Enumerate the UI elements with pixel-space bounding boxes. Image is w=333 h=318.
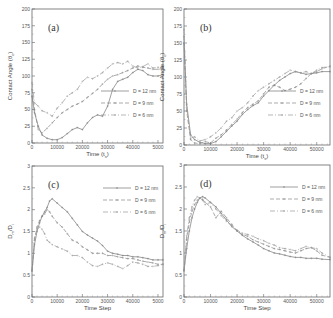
x-axis-label: Time (ts)	[86, 151, 108, 159]
y-tick-label: 125	[22, 56, 31, 62]
x-tick-label: 30000	[257, 146, 271, 152]
x-tick-label: 40000	[126, 144, 140, 150]
legend-entry: D = 6 nm	[133, 112, 153, 118]
y-tick-label: 200	[174, 6, 183, 12]
legend-entry: D = 9 nm	[302, 196, 322, 202]
x-axis-label: Time Step	[243, 305, 271, 311]
y-tick-label: 150	[174, 40, 183, 46]
y-tick-label: 25	[24, 123, 30, 129]
y-tick-label: 2	[27, 206, 30, 212]
y-tick-label: 2.5	[175, 184, 182, 190]
y-tick-label: 1	[27, 250, 30, 256]
y-axis-label: Contact Angle (θc)	[7, 52, 15, 100]
x-tick-label: 40000	[283, 146, 297, 152]
x-tick-label: 0	[183, 298, 186, 304]
legend: D = 12 nmD = 9 nmD = 6 nm	[270, 184, 325, 214]
x-tick-label: 20000	[230, 298, 244, 304]
x-axis-label: Time Step	[84, 305, 112, 311]
legend-entry: D = 9 nm	[135, 197, 155, 203]
x-axis-label: Time (ts)	[246, 153, 268, 161]
x-tick-label: 10000	[204, 146, 218, 152]
x-tick-label: 50000	[310, 298, 324, 304]
y-axis-label: Contact Angle (θc)	[159, 53, 167, 101]
x-tick-label: 0	[31, 298, 34, 304]
panel-label: (a)	[48, 22, 59, 34]
x-tick-label: 20000	[75, 298, 89, 304]
y-tick-label: 0.5	[175, 272, 182, 278]
legend: D = 12 nmD = 9 nmD = 6 nm	[268, 88, 323, 118]
y-tick-label: 25	[176, 125, 182, 131]
y-tick-label: 75	[24, 90, 30, 96]
legend-entry: D = 9 nm	[133, 100, 153, 106]
legend: D = 12 nmD = 9 nmD = 6 nm	[101, 88, 156, 118]
legend-entry: D = 12 nm	[133, 88, 156, 94]
y-tick-label: 175	[174, 23, 183, 29]
legend-entry: D = 12 nm	[302, 184, 325, 190]
legend-entry: D = 12 nm	[300, 88, 323, 94]
y-tick-label: 1.5	[175, 228, 182, 234]
legend-entry: D = 12 nm	[135, 185, 158, 191]
x-tick-label: 20000	[75, 144, 89, 150]
figure: 0255075100125150175200010000200003000040…	[0, 0, 333, 318]
panel-b: 0255075100125150175200010000200003000040…	[159, 6, 331, 161]
legend-entry: D = 6 nm	[300, 112, 320, 118]
panel-c: 00.511.522.530100002000030000400005000Ti…	[7, 163, 164, 311]
x-tick-label: 10000	[50, 298, 64, 304]
panel-label: (d)	[200, 178, 212, 190]
y-tick-label: 2	[179, 206, 182, 212]
y-tick-label: 100	[22, 73, 31, 79]
legend-entry: D = 9 nm	[300, 100, 320, 106]
panel-label: (c)	[48, 179, 59, 191]
x-tick-label: 40000	[283, 298, 297, 304]
y-tick-label: 100	[174, 74, 183, 80]
x-tick-label: 0	[183, 146, 186, 152]
x-tick-label: 30000	[257, 298, 271, 304]
y-tick-label: 150	[22, 39, 31, 45]
y-tick-label: 0.5	[23, 272, 30, 278]
x-tick-label: 5000	[152, 298, 163, 304]
x-tick-label: 30000	[101, 144, 115, 150]
x-tick-label: 10000	[50, 144, 64, 150]
panel-d: 00.511.522.5301000020000300004000050000T…	[159, 162, 331, 311]
y-tick-label: 3	[179, 162, 182, 168]
y-axis-label: Dm/Di	[159, 224, 167, 239]
x-tick-label: 30000	[101, 298, 115, 304]
y-tick-label: 175	[22, 23, 31, 29]
y-tick-label: 3	[27, 163, 30, 169]
panel-label: (b)	[200, 22, 212, 34]
y-tick-label: 200	[22, 6, 31, 12]
series-line	[184, 29, 330, 140]
legend-entry: D = 6 nm	[302, 208, 322, 214]
y-axis-label: Dm/Di	[7, 224, 15, 239]
y-tick-label: 1.5	[23, 228, 30, 234]
y-tick-label: 1	[179, 250, 182, 256]
x-tick-label: 10000	[204, 298, 218, 304]
y-tick-label: 125	[174, 57, 183, 63]
x-tick-label: 20000	[230, 146, 244, 152]
y-tick-label: 50	[24, 106, 30, 112]
x-tick-label: 50000	[310, 146, 324, 152]
y-tick-label: 75	[176, 91, 182, 97]
legend: D = 12 nmD = 9 nmD = 6 nm	[103, 185, 158, 215]
x-tick-label: 40000	[126, 298, 140, 304]
x-tick-label: 5000	[152, 144, 163, 150]
y-tick-label: 2.5	[23, 185, 30, 191]
panel-a: 0255075100125150175200010000200003000040…	[7, 6, 164, 159]
y-tick-label: 50	[176, 108, 182, 114]
legend-entry: D = 6 nm	[135, 209, 155, 215]
x-tick-label: 0	[31, 144, 34, 150]
